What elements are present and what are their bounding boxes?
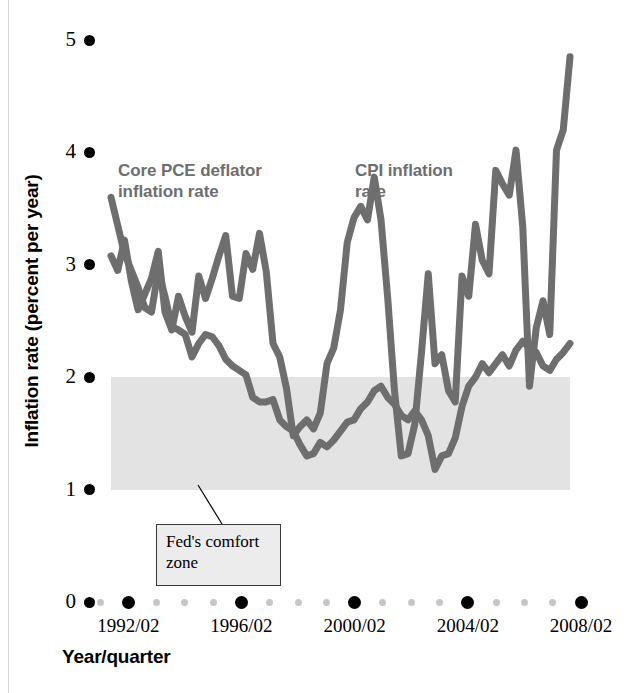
fed-comfort-zone-callout: Fed's comfort zone xyxy=(156,524,281,586)
callout-leader-line xyxy=(0,0,633,693)
leader-path xyxy=(198,485,222,524)
callout-line2: zone xyxy=(166,552,271,573)
inflation-rate-chart: 012345 1992/021996/022000/022004/022008/… xyxy=(0,0,633,693)
callout-line1: Fed's comfort xyxy=(166,531,271,552)
